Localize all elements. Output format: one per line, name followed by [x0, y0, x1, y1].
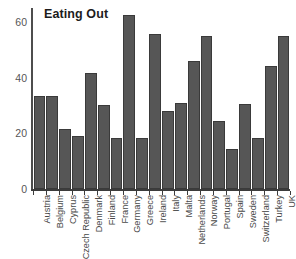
bar — [149, 34, 161, 189]
x-axis-label-finland: Finland — [108, 195, 117, 225]
bar — [123, 15, 135, 189]
x-axis-label-spain: Spain — [236, 195, 245, 219]
x-axis-label-malta: Malta — [185, 195, 194, 217]
x-axis-label-turkey: Turkey — [275, 195, 284, 223]
x-axis-label-greece: Greece — [146, 195, 155, 225]
bar — [59, 129, 71, 189]
x-axis-label-italy: Italy — [172, 195, 181, 212]
x-axis-label-uk: UK — [288, 195, 296, 208]
x-axis-label-france: France — [121, 195, 130, 224]
bar — [252, 138, 264, 190]
x-axis-label-portugal: Portugal — [223, 195, 232, 229]
x-axis-label-sweden: Sweden — [249, 195, 258, 228]
bar — [239, 104, 251, 189]
bar — [85, 73, 97, 189]
bar — [46, 96, 58, 189]
x-axis-label-denmark: Denmark — [95, 195, 104, 232]
y-axis-tick-labels: 0204060 — [0, 0, 31, 259]
x-axis-label-ireland: Ireland — [159, 195, 168, 223]
bar — [226, 149, 238, 189]
bar — [188, 61, 200, 189]
y-axis-tick-0: 0 — [0, 184, 27, 195]
y-axis-tick-60: 60 — [0, 17, 27, 28]
x-axis-label-belgium: Belgium — [56, 195, 65, 228]
bar — [72, 136, 84, 189]
x-axis-label-austria: Austria — [43, 195, 52, 224]
y-axis-tick-40: 40 — [0, 73, 27, 84]
bar — [98, 105, 110, 189]
bar — [213, 121, 225, 189]
bar — [278, 36, 290, 189]
x-axis-label-netherlands: Netherlands — [198, 195, 207, 245]
bar — [136, 138, 148, 190]
bar — [201, 36, 213, 189]
bar — [175, 103, 187, 189]
x-axis-label-cyprus: Cyprus — [69, 195, 78, 224]
eating-out-bar-chart: Eating Out 0204060 AustriaBelgiumCyprusC… — [0, 0, 296, 259]
bar-series — [33, 8, 290, 189]
x-axis-label-switzerland: Switzerland — [262, 195, 271, 243]
y-axis-tick-20: 20 — [0, 128, 27, 139]
x-axis-label-germany: Germany — [133, 195, 142, 233]
x-axis-category-labels: AustriaBelgiumCyprusCzech RepublicDenmar… — [33, 195, 290, 259]
bar — [162, 111, 174, 189]
bar — [265, 66, 277, 189]
x-axis-label-norway: Norway — [210, 195, 219, 226]
bar — [34, 96, 46, 189]
x-axis-label-czech-republic: Czech Republic — [82, 195, 91, 259]
bar — [111, 138, 123, 190]
